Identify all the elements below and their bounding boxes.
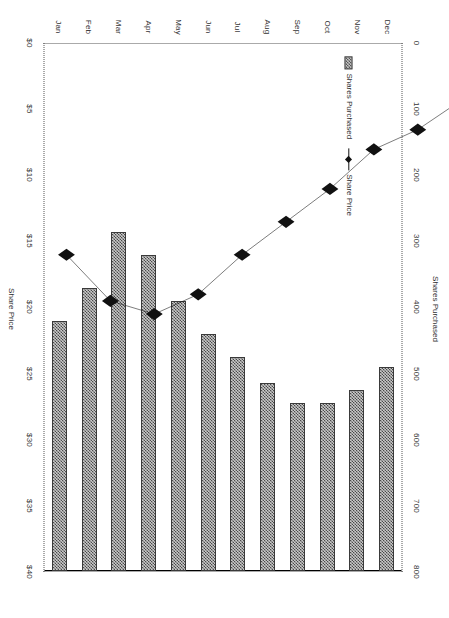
legend-item[interactable]: Share Price — [344, 148, 353, 216]
rotated-figure: $0$5$10$15$20$25$30$35$40 Share Price 01… — [0, 0, 449, 618]
month-label-aug: Aug — [263, 14, 272, 40]
legend-bar-swatch-icon — [345, 56, 353, 69]
axis-tick-label: 600 — [411, 433, 420, 447]
month-label-jan: Jan — [53, 14, 62, 40]
axis-tick-label: 100 — [411, 102, 420, 116]
axis-tick-label: 800 — [411, 565, 420, 579]
axis-tick-label: $15 — [24, 234, 33, 248]
axis-tick-label: $30 — [24, 433, 33, 447]
share-price-axis-ticks: $0$5$10$15$20$25$30$35$40 — [22, 43, 36, 572]
month-label-sep: Sep — [293, 14, 302, 40]
legend-label: Share Price — [344, 174, 353, 216]
month-label-may: May — [173, 14, 182, 40]
axis-tick-label: $20 — [24, 301, 33, 315]
month-label-apr: Apr — [143, 14, 152, 40]
month-label-jun: Jun — [203, 14, 212, 40]
month-label-nov: Nov — [353, 14, 362, 40]
line-marker-apr[interactable] — [189, 288, 206, 300]
chart-legend: Shares PurchasedShare Price — [344, 56, 353, 216]
month-label-oct: Oct — [323, 14, 332, 40]
month-label-mar: Mar — [113, 14, 122, 40]
month-category-labels: JanFebMarAprMayJunJulAugSepOctNovDec — [43, 14, 402, 40]
axis-tick-label: 0 — [411, 41, 420, 46]
axis-tick-label: $35 — [24, 499, 33, 513]
axis-tick-label: $25 — [24, 367, 33, 381]
month-label-dec: Dec — [383, 14, 392, 40]
axis-tick-label: $5 — [24, 104, 33, 113]
share-price-axis-title: Share Price — [6, 0, 15, 618]
shares-purchased-axis-title: Shares Purchased — [430, 0, 439, 618]
axis-tick-label: 700 — [411, 499, 420, 513]
line-marker-jul[interactable] — [321, 183, 338, 195]
axis-tick-label: $10 — [24, 168, 33, 182]
month-label-jul: Jul — [233, 14, 242, 40]
axis-tick-label: $0 — [24, 38, 33, 47]
line-series-share-price — [44, 44, 449, 571]
axis-tick-label: $40 — [24, 565, 33, 579]
share-price-line — [66, 100, 449, 314]
legend-item[interactable]: Shares Purchased — [344, 56, 353, 139]
axis-tick-label: 500 — [411, 367, 420, 381]
shares-purchased-axis-ticks: 0100200300400500600700800 — [409, 43, 423, 572]
axis-tick-label: 400 — [411, 301, 420, 315]
combo-chart: $0$5$10$15$20$25$30$35$40 Share Price 01… — [0, 0, 449, 618]
legend-label: Shares Purchased — [344, 73, 353, 139]
legend-line-diamond-icon — [345, 148, 353, 170]
line-marker-mar[interactable] — [145, 308, 162, 320]
chart-canvas: $0$5$10$15$20$25$30$35$40 Share Price 01… — [0, 0, 449, 618]
axis-tick-label: 200 — [411, 168, 420, 182]
line-marker-feb[interactable] — [101, 295, 118, 307]
month-label-feb: Feb — [83, 14, 92, 40]
axis-tick-label: 300 — [411, 234, 420, 248]
line-marker-jan[interactable] — [58, 249, 75, 261]
line-marker-aug[interactable] — [365, 143, 382, 155]
